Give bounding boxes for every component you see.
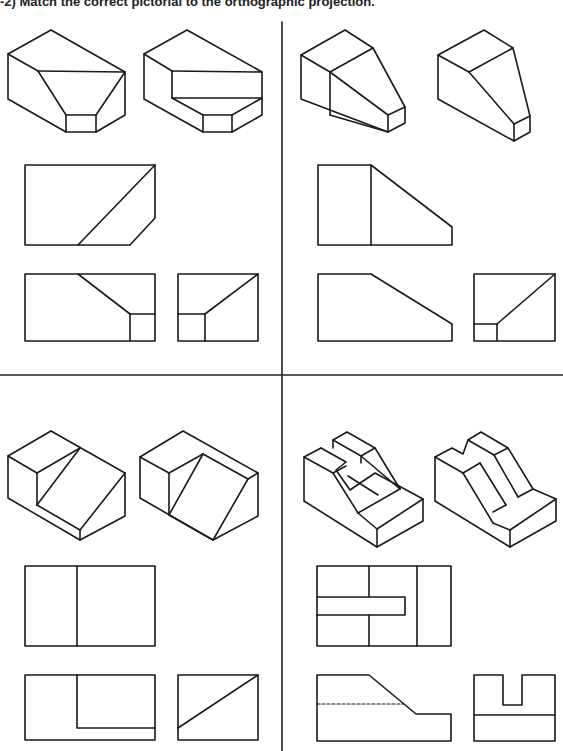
top-view (317, 566, 451, 646)
front-view (25, 274, 155, 341)
pictorial-a[interactable] (301, 30, 405, 132)
pictorial-b[interactable] (438, 30, 530, 141)
front-view (317, 675, 451, 741)
pictorial-b[interactable] (435, 432, 556, 547)
right-side-view (178, 274, 258, 341)
drawing-sheet (0, 0, 563, 751)
pictorial-b[interactable] (140, 431, 258, 540)
problem-top-right (301, 30, 555, 341)
pictorial-a[interactable] (8, 431, 125, 540)
top-view (25, 566, 155, 646)
problem-bottom-left (8, 431, 258, 740)
top-view (318, 165, 452, 245)
front-view (25, 675, 155, 740)
problem-bottom-right (304, 432, 556, 741)
right-side-view (474, 675, 555, 741)
pictorial-a[interactable] (304, 432, 423, 547)
pictorial-b[interactable] (144, 30, 262, 132)
front-view (318, 274, 452, 341)
pictorial-a[interactable] (8, 30, 125, 132)
right-side-view (474, 274, 555, 341)
problem-top-left (8, 30, 262, 341)
right-side-view (178, 675, 258, 740)
top-view (25, 165, 155, 245)
